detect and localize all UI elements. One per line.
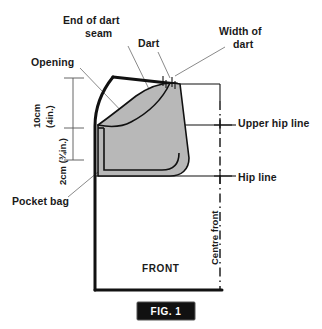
measurement-upper-line2: (4in.) xyxy=(44,105,55,128)
label-upper-hip-line: Upper hip line xyxy=(238,117,309,129)
dimension-scale: 10cm (4in.) 2cm (¾in.) xyxy=(31,78,84,185)
label-centre-front: Centre front xyxy=(209,210,220,265)
leader-width-of-dart xyxy=(175,47,225,76)
label-end-of-dart-seam-line2: seam xyxy=(85,27,112,39)
label-end-of-dart-seam-line1: End of dart xyxy=(63,14,120,26)
side-seam-curve xyxy=(95,77,113,290)
pattern-diagram: End of dart seam Dart Width of dart Open… xyxy=(0,0,322,329)
figure-caption: FIG. 1 xyxy=(137,302,195,320)
label-dart: Dart xyxy=(138,37,160,49)
pocket-bag-fill xyxy=(98,83,189,176)
measurement-upper-line1: 10cm xyxy=(31,104,42,128)
label-width-of-dart-line2: dart xyxy=(233,38,254,50)
figure-container: End of dart seam Dart Width of dart Open… xyxy=(0,0,322,329)
leader-dart xyxy=(158,52,170,78)
measurement-lower: 2cm (¾in.) xyxy=(57,138,68,185)
pocket-bag-shape xyxy=(98,83,189,176)
label-pocket-bag: Pocket bag xyxy=(12,195,69,207)
label-width-of-dart-line1: Width of xyxy=(219,25,262,37)
caption-text: FIG. 1 xyxy=(151,306,182,317)
label-opening: Opening xyxy=(31,56,74,68)
label-hip-line: Hip line xyxy=(238,171,277,183)
label-front: FRONT xyxy=(142,263,179,274)
